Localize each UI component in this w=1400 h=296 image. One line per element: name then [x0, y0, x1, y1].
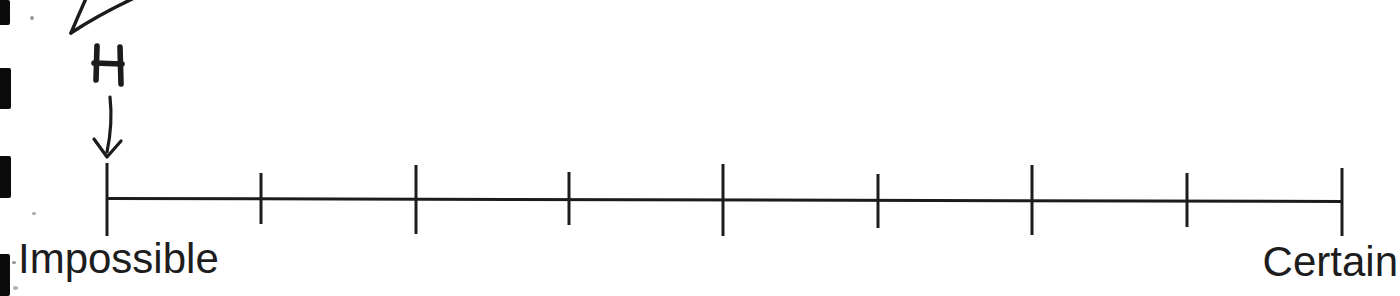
worksheet-page: Impossible Certain: [0, 0, 1400, 296]
h-crossbar-stroke: [94, 63, 122, 64]
cutoff-curve-doodle: [71, 0, 145, 33]
handwritten-letter-h: [94, 46, 122, 84]
arrow-shaft: [107, 97, 111, 152]
scale-label-certain: Certain: [1263, 241, 1398, 283]
scale-label-impossible: Impossible: [18, 238, 219, 280]
down-arrow-icon: [94, 97, 121, 157]
